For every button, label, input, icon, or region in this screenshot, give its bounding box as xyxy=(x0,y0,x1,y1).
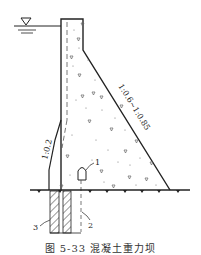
callout-1: 1 xyxy=(95,158,100,167)
water-level-icon xyxy=(14,18,62,33)
callout-3: 3 xyxy=(33,223,38,232)
callout-2: 2 xyxy=(88,221,93,230)
grout-curtain xyxy=(50,191,81,233)
figure-caption: 图 5-33 混凝土重力坝 xyxy=(0,240,201,255)
